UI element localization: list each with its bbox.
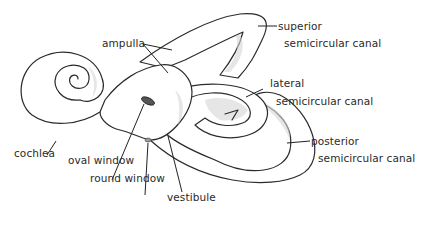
label-ampulla: ampulla xyxy=(102,37,145,49)
label-round-window: round window xyxy=(90,172,165,184)
label-superior-canal-line1: superior xyxy=(278,20,322,32)
cochlea-spiral xyxy=(21,52,103,123)
label-vestibule: vestibule xyxy=(167,191,216,203)
label-cochlea: cochlea xyxy=(14,147,55,159)
label-oval-window: oval window xyxy=(68,154,134,166)
label-lateral-canal-line1: lateral xyxy=(270,77,304,89)
label-lateral-canal-line2: semicircular canal xyxy=(276,95,373,107)
label-superior-canal-line2: semicircular canal xyxy=(284,37,381,49)
round-window-shape xyxy=(145,138,151,142)
label-posterior-canal-line1: posterior xyxy=(311,135,359,147)
label-posterior-canal-line2: semicircular canal xyxy=(318,152,415,164)
